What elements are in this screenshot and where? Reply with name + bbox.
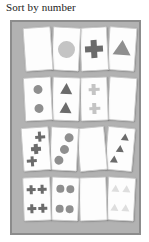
circle-symbol xyxy=(57,40,75,58)
circle-symbol xyxy=(66,185,74,193)
triangle-symbol xyxy=(122,185,130,192)
card[interactable] xyxy=(106,26,137,72)
cross-symbol xyxy=(27,156,38,167)
card-row xyxy=(12,127,139,173)
triangle-symbol xyxy=(60,83,72,94)
star-symbol xyxy=(28,39,47,58)
circle-symbol xyxy=(66,205,74,213)
card[interactable] xyxy=(104,126,136,172)
star-symbol xyxy=(115,102,128,115)
card[interactable] xyxy=(22,26,53,72)
cross-symbol xyxy=(27,204,36,213)
triangle-symbol xyxy=(115,144,124,152)
triangle-symbol xyxy=(110,155,119,163)
card[interactable] xyxy=(51,26,81,71)
star-symbol xyxy=(116,83,129,96)
star-symbol xyxy=(94,204,103,213)
card[interactable] xyxy=(20,126,51,172)
card[interactable] xyxy=(79,26,109,71)
cross-symbol xyxy=(35,132,46,143)
circle-symbol xyxy=(59,144,68,153)
card[interactable] xyxy=(50,177,80,222)
cross-symbol xyxy=(31,144,42,155)
card[interactable] xyxy=(106,176,136,221)
card[interactable] xyxy=(23,76,53,121)
triangle-symbol xyxy=(121,133,130,141)
cross-symbol xyxy=(88,84,99,95)
card[interactable] xyxy=(76,126,108,172)
star-symbol xyxy=(86,143,98,155)
card-row xyxy=(12,177,139,223)
triangle-symbol xyxy=(111,204,119,211)
triangle-symbol xyxy=(112,184,120,191)
cross-symbol xyxy=(89,103,100,114)
card[interactable] xyxy=(106,76,137,122)
card[interactable] xyxy=(51,77,81,122)
circle-symbol xyxy=(34,104,43,113)
cross-symbol xyxy=(85,40,104,59)
star-symbol xyxy=(83,185,92,194)
star-symbol xyxy=(82,155,94,167)
triangle-symbol xyxy=(59,102,71,113)
circle-symbol xyxy=(55,204,63,212)
star-symbol xyxy=(93,184,102,193)
cross-symbol xyxy=(27,185,36,194)
card-row xyxy=(12,77,139,123)
circle-symbol xyxy=(65,133,74,142)
circle-symbol xyxy=(54,156,63,165)
page-title: Sort by number xyxy=(6,1,76,13)
card[interactable] xyxy=(22,177,52,222)
cross-symbol xyxy=(38,204,47,213)
triangle-symbol xyxy=(121,204,129,211)
star-symbol xyxy=(83,204,92,213)
cross-symbol xyxy=(37,184,46,193)
star-symbol xyxy=(90,131,102,143)
sort-by-number-activity: Sort by number xyxy=(0,0,149,242)
card-row xyxy=(12,27,139,73)
card[interactable] xyxy=(78,177,108,222)
circle-symbol xyxy=(33,85,42,94)
circle-symbol xyxy=(56,185,64,193)
card-panel xyxy=(10,20,141,235)
card[interactable] xyxy=(49,126,79,171)
triangle-symbol xyxy=(113,39,132,55)
card[interactable] xyxy=(79,77,109,122)
